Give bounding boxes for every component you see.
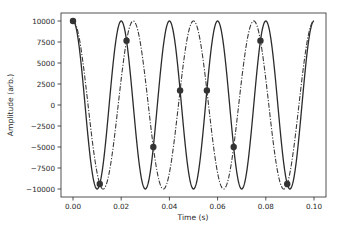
intersection-marker bbox=[123, 37, 129, 43]
x-tick-label: 0.00 bbox=[65, 202, 81, 211]
intersection-marker bbox=[204, 87, 210, 93]
series-50hz-solid-line bbox=[73, 21, 314, 189]
x-tick-label: 0.10 bbox=[306, 202, 322, 211]
intersection-marker bbox=[97, 181, 103, 187]
x-tick-label: 0.04 bbox=[161, 202, 177, 211]
intersection-marker bbox=[177, 87, 183, 93]
y-tick-label: 10000 bbox=[32, 17, 55, 26]
x-tick-label: 0.06 bbox=[210, 202, 226, 211]
line-chart: 0.000.020.040.060.080.10 100007500500025… bbox=[0, 0, 339, 234]
intersection-marker bbox=[257, 37, 263, 43]
intersection-marker bbox=[70, 18, 76, 24]
intersection-marker bbox=[284, 181, 290, 187]
y-tick-label: 2500 bbox=[37, 80, 56, 89]
intersection-marker bbox=[230, 144, 236, 150]
y-tick-label: −5000 bbox=[31, 143, 56, 152]
y-tick-label: 7500 bbox=[37, 38, 56, 47]
y-axis-ticks: 100007500500025000−2500−5000−7500−10000 bbox=[26, 17, 61, 194]
x-tick-label: 0.08 bbox=[258, 202, 274, 211]
x-tick-label: 0.02 bbox=[113, 202, 129, 211]
x-axis-ticks: 0.000.020.040.060.080.10 bbox=[65, 197, 322, 211]
axes-frame bbox=[61, 13, 326, 197]
y-tick-label: −7500 bbox=[31, 164, 56, 173]
x-axis-label: Time (s) bbox=[177, 213, 209, 222]
intersection-marker bbox=[150, 144, 156, 150]
y-tick-label: 0 bbox=[50, 101, 55, 110]
y-tick-label: 5000 bbox=[37, 59, 56, 68]
y-tick-label: −10000 bbox=[26, 185, 55, 194]
plot-area bbox=[70, 18, 314, 189]
y-tick-label: −2500 bbox=[31, 122, 56, 131]
y-axis-label: Amplitude (arb.) bbox=[6, 74, 15, 136]
